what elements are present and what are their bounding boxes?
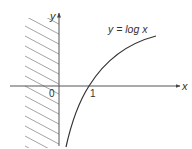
origin-label: 0 [49,88,55,99]
y-axis-label: y [49,10,57,22]
curve-label: y = log x [107,23,148,35]
log-graph-diagram: y x 0 1 y = log x [0,0,192,149]
x-axis-label: x [181,80,188,92]
hatched-excluded-region [10,0,70,149]
log-curve [66,36,156,147]
x-intercept-label: 1 [90,88,96,99]
